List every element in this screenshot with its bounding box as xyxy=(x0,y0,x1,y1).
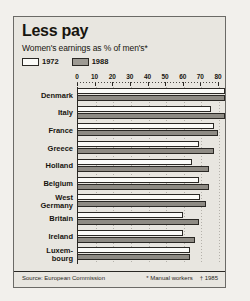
x-tick-label-70: 70 xyxy=(197,73,204,80)
category-label-greece: Greece xyxy=(17,145,73,154)
legend-item-1972: 1972 xyxy=(22,57,59,66)
x-tick-label-50: 50 xyxy=(162,73,169,80)
x-tick-mark-20 xyxy=(112,82,113,86)
category-label-ireland: Ireland xyxy=(17,233,73,242)
bar-1988-france xyxy=(77,130,218,136)
x-axis-line xyxy=(77,82,218,83)
category-label-italy: Italy xyxy=(17,109,73,118)
bar-1988-luxembourg xyxy=(77,254,190,260)
category-label-luxembourg: Luxem-bourg xyxy=(17,247,73,264)
bar-1972-britain xyxy=(77,212,183,218)
bar-1988-britain xyxy=(77,219,199,225)
footnotes: * Manual workers † 1985 xyxy=(146,275,218,281)
bar-row: Greece xyxy=(77,140,218,158)
x-tick-mark-10 xyxy=(95,82,96,86)
legend-swatch-1972 xyxy=(22,58,39,66)
bar-1972-luxembourg xyxy=(77,247,190,253)
legend-label-1972: 1972 xyxy=(42,57,59,66)
x-tick-mark-50 xyxy=(165,82,166,86)
x-tick-label-0: 0 xyxy=(75,73,79,80)
bar-1988-denmark xyxy=(77,95,225,101)
bar-1972-italy xyxy=(77,106,211,112)
x-tick-mark-30 xyxy=(130,82,131,86)
bar-1988-west-germany xyxy=(77,201,206,207)
footnote-manual-workers: * Manual workers xyxy=(146,275,192,281)
x-tick-mark-0 xyxy=(77,82,78,86)
bar-1988-ireland xyxy=(77,237,195,243)
x-tick-mark-60 xyxy=(183,82,184,86)
chart-footer: Source: European Commission * Manual wor… xyxy=(14,271,225,287)
category-label-britain: Britain xyxy=(17,215,73,224)
chart-subtitle: Women's earnings as % of men's* xyxy=(22,43,148,53)
footnote-year: † 1985 xyxy=(200,275,218,281)
x-tick-label-80: 80 xyxy=(214,73,221,80)
bar-row: Ireland xyxy=(77,229,218,247)
bar-row: France xyxy=(77,122,218,140)
page-title: Less pay xyxy=(22,22,88,40)
bar-row: Britain xyxy=(77,211,218,229)
bar-1988-holland xyxy=(77,166,209,172)
bar-row: Denmark xyxy=(77,87,218,105)
x-tick-label-30: 30 xyxy=(126,73,133,80)
bar-row: Holland xyxy=(77,158,218,176)
x-tick-label-10: 10 xyxy=(91,73,98,80)
x-tick-mark-40 xyxy=(148,82,149,86)
x-tick-mark-80 xyxy=(218,82,219,86)
x-tick-label-40: 40 xyxy=(144,73,151,80)
bar-1988-greece xyxy=(77,148,214,154)
category-label-denmark: Denmark xyxy=(17,92,73,101)
bar-1972-france xyxy=(77,123,214,129)
category-label-holland: Holland xyxy=(17,162,73,171)
category-label-france: France xyxy=(17,127,73,136)
bar-1988-belgium xyxy=(77,184,209,190)
x-axis-ticks: 01020304050607080 xyxy=(77,73,218,87)
bar-1972-west-germany xyxy=(77,194,200,200)
legend-swatch-1988 xyxy=(72,58,89,66)
bar-row: Belgium xyxy=(77,176,218,194)
x-tick-label-60: 60 xyxy=(179,73,186,80)
bar-1972-denmark xyxy=(77,88,225,94)
x-tick-label-20: 20 xyxy=(109,73,116,80)
source-label: Source: European Commission xyxy=(22,275,105,281)
category-label-west-germany: WestGermany xyxy=(17,194,73,211)
bar-row: Italy xyxy=(77,105,218,123)
bar-1972-belgium xyxy=(77,177,199,183)
chart-panel: Less pay Women's earnings as % of men's*… xyxy=(13,16,226,288)
legend-label-1988: 1988 xyxy=(92,57,109,66)
chart-legend: 1972 1988 xyxy=(22,57,108,66)
bar-1972-greece xyxy=(77,141,199,147)
bar-1988-italy xyxy=(77,113,225,119)
x-tick-mark-70 xyxy=(200,82,201,86)
bar-1972-holland xyxy=(77,159,192,165)
bar-1972-ireland xyxy=(77,230,183,236)
category-label-belgium: Belgium xyxy=(17,180,73,189)
legend-item-1988: 1988 xyxy=(72,57,109,66)
bar-row: WestGermany xyxy=(77,193,218,211)
bars-container: DenmarkItalyFranceGreeceHollandBelgiumWe… xyxy=(77,87,218,264)
bar-row: Luxem-bourg xyxy=(77,246,218,264)
